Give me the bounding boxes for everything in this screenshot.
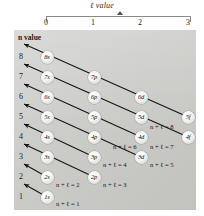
orbital-2p[interactable]: 2p — [88, 171, 101, 184]
orbital-3s[interactable]: 3s — [41, 151, 54, 164]
arrow-sum-4 — [24, 124, 94, 157]
sum-label-5: n + ℓ = 5 — [150, 161, 173, 168]
sum-label-8: n + ℓ = 8 — [150, 123, 173, 130]
sum-label-1: n + ℓ = 1 — [56, 200, 79, 207]
orbital-5d[interactable]: 5d — [135, 111, 148, 124]
figure-root: ℓ value 0 1 2 3 n value 8 7 6 5 4 3 2 1 — [0, 0, 204, 216]
arrow-sum-6 — [24, 84, 141, 137]
orbital-2s[interactable]: 2s — [41, 171, 54, 184]
orbital-4p[interactable]: 4p — [88, 131, 101, 144]
orbital-5p[interactable]: 5p — [88, 111, 101, 124]
diagonal-arrows — [0, 0, 204, 216]
orbital-6p[interactable]: 6p — [88, 91, 101, 104]
orbital-3d[interactable]: 3d — [135, 151, 148, 164]
sum-label-4: n + ℓ = 4 — [103, 161, 126, 168]
orbital-5s[interactable]: 5s — [41, 111, 54, 124]
sum-label-2: n + ℓ = 2 — [56, 181, 79, 188]
orbital-7s[interactable]: 7s — [41, 71, 54, 84]
orbital-4f[interactable]: 4f — [182, 131, 195, 144]
orbital-4d[interactable]: 4d — [135, 131, 148, 144]
orbital-8s[interactable]: 8s — [41, 51, 54, 64]
orbital-4s[interactable]: 4s — [41, 131, 54, 144]
sum-label-3: n + ℓ = 3 — [103, 181, 126, 188]
orbital-6d[interactable]: 6d — [135, 91, 148, 104]
orbital-7p[interactable]: 7p — [88, 71, 101, 84]
orbital-5f[interactable]: 5f — [182, 111, 195, 124]
sum-label-7: n + ℓ = 7 — [150, 143, 173, 150]
sum-label-7-row: n + ℓ = 7 — [150, 143, 173, 150]
orbital-3p[interactable]: 3p — [88, 151, 101, 164]
sum-label-6: n + ℓ = 6 — [113, 143, 136, 150]
orbital-6s[interactable]: 6s — [41, 91, 54, 104]
arrow-sum-3 — [24, 144, 94, 177]
orbital-1s[interactable]: 1s — [41, 191, 54, 204]
